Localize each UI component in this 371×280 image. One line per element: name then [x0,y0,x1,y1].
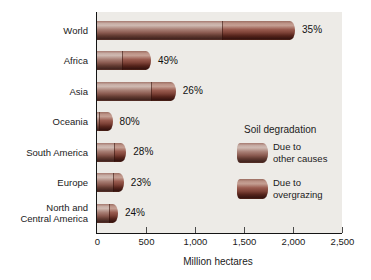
x-tick-label: 1,000 [184,236,208,247]
percent-label: 35% [302,24,322,36]
category-label: Asia [0,86,88,97]
bar-segment-overgrazing [222,21,295,40]
legend-swatch-overgrazing [237,179,268,199]
x-tick [146,227,147,233]
legend-label-other-causes: Due to other causes [273,141,327,164]
plot-panel: 35%49%26%80%28%23%24% [96,12,342,234]
x-tick [195,227,196,233]
bar-row [97,173,124,192]
percent-label: 26% [183,85,203,97]
percent-label: 28% [133,146,153,158]
x-tick-label: 1,500 [233,236,257,247]
x-tick-label: 500 [139,236,155,247]
x-axis-title: Million hectares [183,256,252,267]
bar-row [97,82,176,101]
x-tick-label: 0 [95,236,100,247]
category-label: Africa [0,55,88,66]
bar-row [97,204,118,223]
bar-segment-other-causes [97,143,114,162]
bar-segment-overgrazing [114,143,126,162]
category-label: World [0,25,88,36]
percent-label: 24% [125,207,145,219]
legend-swatch-other-causes [237,143,268,163]
bar-segment-other-causes [97,51,122,70]
bar-segment-overgrazing [151,82,176,101]
bar-segment-other-causes [97,21,222,40]
x-tick-label: 2,500 [331,236,355,247]
bar-segment-other-causes [97,204,109,223]
legend-title: Soil degradation [244,124,316,135]
category-label: Oceania [0,116,88,127]
legend-label-overgrazing: Due to overgrazing [273,177,323,200]
category-label: South America [0,147,88,158]
bar-segment-overgrazing [99,112,113,131]
bar-segment-overgrazing [122,51,151,70]
bar-row [97,21,295,40]
bar-segment-other-causes [97,82,151,101]
bar-row [97,143,126,162]
x-tick [244,227,245,233]
bar-row [97,112,113,131]
bar-segment-overgrazing [113,173,123,192]
bar-row [97,51,151,70]
x-tick [293,227,294,233]
bar-segment-other-causes [97,173,113,192]
x-tick [342,227,343,233]
bar-segment-overgrazing [109,204,118,223]
percent-label: 49% [158,55,178,67]
x-tick-label: 2,000 [282,236,306,247]
chart: 35%49%26%80%28%23%24% Soil degradation D… [0,0,371,280]
category-label: Europe [0,177,88,188]
category-label: North and Central America [0,202,88,224]
percent-label: 80% [120,116,140,128]
percent-label: 23% [131,177,151,189]
